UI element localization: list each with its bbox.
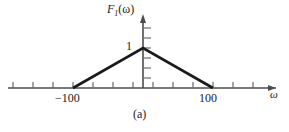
y-axis (140, 14, 146, 88)
x-tick-label-minus-100: −100 (55, 92, 80, 104)
x-axis (8, 85, 276, 91)
y-axis-arrow-icon (140, 14, 146, 23)
figure-caption: (a) (133, 108, 146, 120)
x-axis-ticks (13, 82, 253, 88)
y-axis-label: F1(ω) (107, 3, 134, 18)
y-tick-label-one: 1 (126, 40, 132, 52)
x-axis-label-omega: ω (270, 89, 278, 100)
figure-container: F1(ω) 1 −100 100 ω (a) (0, 0, 289, 132)
y-axis-label-argument: (ω) (118, 2, 134, 16)
x-tick-label-100: 100 (199, 92, 217, 104)
